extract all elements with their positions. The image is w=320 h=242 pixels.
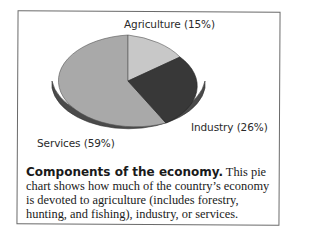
label-agriculture: Agriculture (15%) [124,18,215,30]
caption-title: Components of the economy. [26,165,223,179]
label-industry: Industry (26%) [191,121,268,133]
figure-caption: Components of the economy. This pie char… [26,165,276,221]
label-services: Services (59%) [37,137,115,149]
